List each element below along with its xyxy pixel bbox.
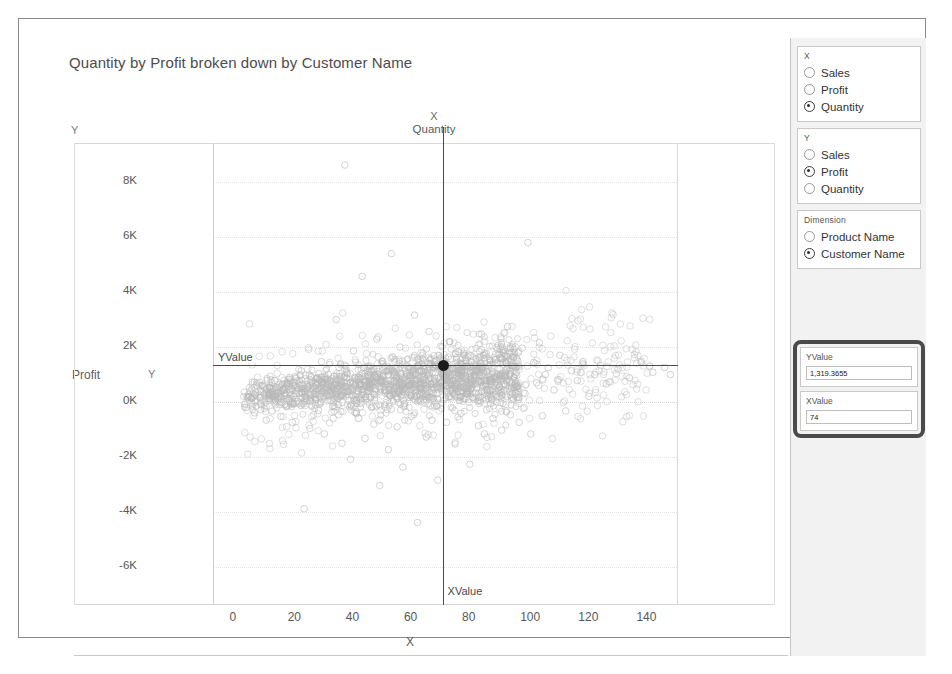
radio-label: Customer Name — [821, 248, 905, 260]
scatter-point — [643, 387, 650, 394]
scatter-point — [640, 413, 647, 420]
scatter-point — [342, 162, 349, 169]
scatter-point — [335, 355, 342, 362]
y-gridline — [214, 292, 677, 293]
scatter-point — [562, 408, 569, 415]
scatter-point — [267, 353, 274, 360]
scatter-point — [580, 324, 587, 331]
dimension-card-title: Dimension — [804, 215, 914, 225]
scatter-point — [492, 411, 498, 417]
scatter-point — [620, 418, 627, 425]
scatter-point — [526, 415, 533, 422]
scatter-point — [433, 333, 440, 340]
scatter-point — [605, 359, 612, 366]
scatter-point — [472, 410, 478, 416]
radio-icon[interactable] — [804, 101, 815, 112]
scatter-point — [516, 419, 523, 426]
y-tick-label: -6K — [97, 559, 137, 571]
y-option-profit[interactable]: Profit — [804, 163, 914, 180]
scatter-point — [524, 336, 531, 343]
scatter-point — [591, 371, 598, 378]
scatter-point — [467, 461, 474, 468]
scatter-point — [385, 422, 392, 429]
scatter-point — [414, 519, 421, 526]
scatter-point — [315, 427, 322, 434]
radio-icon[interactable] — [804, 166, 815, 177]
scatter-point — [599, 433, 606, 440]
x-option-sales[interactable]: Sales — [804, 64, 914, 81]
scatter-point — [481, 319, 488, 326]
radio-icon[interactable] — [804, 149, 815, 160]
scatter-point — [371, 421, 378, 428]
scatter-point — [435, 477, 442, 484]
y-gridline — [214, 567, 677, 568]
scatter-point — [363, 350, 370, 357]
dimension-option-product-name[interactable]: Product Name — [804, 228, 914, 245]
scatter-point — [279, 349, 286, 356]
scatter-point — [374, 336, 381, 343]
radio-icon[interactable] — [804, 183, 815, 194]
xvalue-label: XValue — [806, 396, 912, 406]
radio-label: Quantity — [821, 183, 864, 195]
scatter-point — [283, 423, 290, 430]
frame-foot-rule — [74, 655, 788, 656]
y-measure-label: Profit — [72, 368, 100, 382]
scatter-point — [578, 306, 585, 313]
y-option-sales[interactable]: Sales — [804, 146, 914, 163]
radio-icon[interactable] — [804, 67, 815, 78]
scatter-point — [488, 433, 495, 440]
scatter-point — [536, 397, 543, 404]
y-axis-letter: Y — [148, 368, 155, 380]
scatter-point — [640, 315, 647, 322]
scatter-point — [569, 391, 576, 398]
scatter-point — [600, 392, 607, 399]
radio-icon[interactable] — [804, 231, 815, 242]
x-radio-options: SalesProfitQuantity — [804, 64, 914, 115]
scatter-point — [560, 399, 567, 406]
scatter-point — [480, 421, 487, 428]
scatter-point — [377, 407, 384, 414]
page-title: Quantity by Profit broken down by Custom… — [69, 54, 412, 71]
scatter-point — [617, 321, 624, 328]
x-tick-label: 20 — [288, 610, 301, 624]
scatter-point — [267, 445, 274, 452]
plot-canvas — [214, 143, 677, 605]
scatter-point — [394, 424, 401, 431]
scatter-point — [406, 332, 413, 339]
scatter-point — [566, 386, 573, 393]
x-option-quantity[interactable]: Quantity — [804, 98, 914, 115]
yvalue-input[interactable] — [806, 366, 912, 380]
plot-area[interactable] — [213, 143, 678, 605]
scatter-point — [443, 323, 450, 330]
scatter-point — [579, 403, 586, 410]
dimension-option-customer-name[interactable]: Customer Name — [804, 245, 914, 262]
radio-label: Quantity — [821, 101, 864, 113]
scatter-point — [588, 376, 595, 383]
scatter-point — [528, 431, 535, 438]
scatter-point — [549, 435, 556, 442]
scatter-point — [563, 287, 570, 294]
y-tick-label: -2K — [97, 449, 137, 461]
scatter-point — [279, 437, 286, 444]
scatter-point — [333, 316, 340, 323]
scatter-point — [551, 387, 558, 394]
xvalue-input[interactable] — [806, 410, 912, 424]
scatter-point — [359, 273, 366, 280]
app-root: Quantity by Profit broken down by Custom… — [0, 0, 952, 674]
highlight-point-marker[interactable] — [438, 360, 449, 371]
scatter-point — [535, 371, 542, 378]
radio-label: Sales — [821, 67, 850, 79]
radio-icon[interactable] — [804, 248, 815, 259]
radio-icon[interactable] — [804, 84, 815, 95]
x-option-profit[interactable]: Profit — [804, 81, 914, 98]
radio-label: Profit — [821, 166, 848, 178]
scatter-point — [339, 310, 346, 317]
scatter-point — [363, 357, 369, 363]
scatter-point — [426, 328, 433, 335]
scatter-point — [539, 413, 546, 420]
y-option-quantity[interactable]: Quantity — [804, 180, 914, 197]
scatter-point — [547, 351, 554, 358]
scatter-point — [421, 406, 428, 413]
scatter-point — [336, 333, 343, 340]
yvalue-label: YValue — [806, 352, 912, 362]
